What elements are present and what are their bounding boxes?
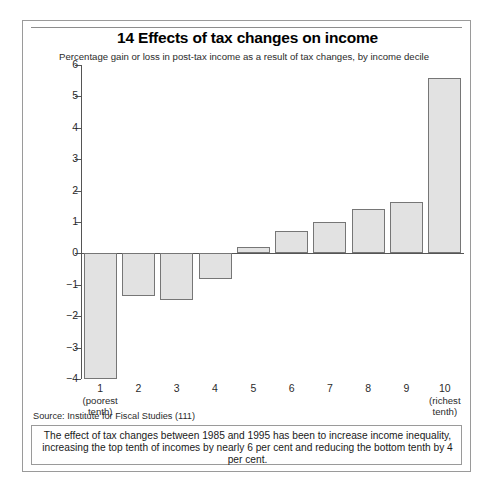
x-axis-label: 7 — [311, 383, 349, 395]
chart-subtitle: Percentage gain or loss in post-tax inco… — [59, 51, 469, 62]
bar — [237, 247, 270, 253]
x-axis-label-value: 3 — [174, 382, 180, 394]
figure-container: 14 Effects of tax changes on income Perc… — [22, 20, 471, 472]
bar — [428, 78, 461, 254]
x-axis-label-value: 5 — [250, 382, 256, 394]
x-axis-label: 6 — [273, 383, 311, 395]
x-axis-label: 10(richesttenth) — [426, 383, 464, 418]
x-axis-label-note: tenth) — [426, 406, 464, 418]
y-axis-tick-label: 2 — [72, 184, 78, 196]
x-axis-label: 3 — [158, 383, 196, 395]
x-axis-label-value: 2 — [136, 382, 142, 394]
source-note: Source: Institute for Fiscal Studies (11… — [33, 411, 195, 421]
bar — [275, 231, 308, 253]
chart-title: 14 Effects of tax changes on income — [23, 29, 472, 47]
bar — [199, 253, 232, 278]
plot-area: 6543210−1−2−3−4 — [81, 65, 464, 379]
y-axis-tick-label: 0 — [72, 246, 78, 258]
bar — [352, 209, 385, 253]
x-axis-label-note: (richest — [426, 395, 464, 407]
x-axis-label-value: 9 — [404, 382, 410, 394]
x-axis-label-value: 6 — [289, 382, 295, 394]
x-axis-label-value: 8 — [365, 382, 371, 394]
y-axis-line — [81, 65, 82, 379]
bar — [84, 253, 117, 379]
y-axis-tick-label: −3 — [66, 341, 78, 353]
y-axis-tick-label: 6 — [72, 58, 78, 70]
title-divider-rule — [31, 27, 462, 28]
bar — [313, 222, 346, 253]
x-axis-label: 5 — [234, 383, 272, 395]
y-axis-tick-label: 4 — [72, 121, 78, 133]
x-axis-label: 2 — [119, 383, 157, 395]
y-axis-tick-label: −2 — [66, 309, 78, 321]
y-axis-tick-label: 1 — [72, 215, 78, 227]
bar — [390, 202, 423, 254]
bar — [122, 253, 155, 295]
y-axis-tick-label: 3 — [72, 152, 78, 164]
y-axis-tick-label: −1 — [66, 278, 78, 290]
y-axis-tick-label: −4 — [66, 372, 78, 384]
bar — [160, 253, 193, 300]
x-axis-label-value: 7 — [327, 382, 333, 394]
x-axis-label-value: 4 — [212, 382, 218, 394]
x-axis-label-note: (poorest — [81, 395, 119, 407]
x-axis-label: 8 — [349, 383, 387, 395]
caption-text: The effect of tax changes between 1985 a… — [42, 430, 453, 467]
x-axis-label: 4 — [196, 383, 234, 395]
y-axis-tick-label: 5 — [72, 89, 78, 101]
x-axis-label-value: 10 — [439, 382, 451, 394]
x-axis-label-value: 1 — [97, 382, 103, 394]
x-axis-label: 9 — [387, 383, 425, 395]
caption-box: The effect of tax changes between 1985 a… — [31, 425, 462, 465]
